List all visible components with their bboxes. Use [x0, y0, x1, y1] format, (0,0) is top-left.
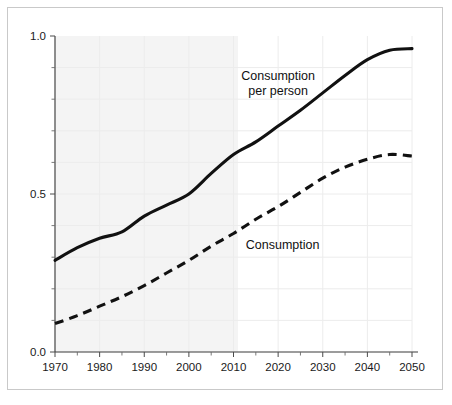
series-annotation-1: Consumption: [241, 69, 315, 83]
x-tick-label: 2000: [176, 361, 202, 373]
x-tick-label: 2030: [310, 361, 336, 373]
x-axis-tick-labels: 197019801990200020102020203020402050: [42, 361, 425, 373]
x-tick-label: 2010: [221, 361, 247, 373]
y-tick-label: 1.0: [30, 30, 46, 42]
series-annotation-2: Consumption: [246, 238, 320, 252]
series-annotations: Consumptionper personConsumption: [241, 69, 319, 252]
y-tick-label: 0.0: [30, 346, 46, 358]
x-tick-label: 1990: [131, 361, 157, 373]
x-tick-label: 1970: [42, 361, 68, 373]
line-chart-canvas: 197019801990200020102020203020402050 0.0…: [0, 0, 452, 405]
y-axis-tick-labels: 0.00.51.0: [30, 30, 46, 358]
x-tick-label: 2020: [265, 361, 291, 373]
series-annotation-1: per person: [248, 84, 308, 98]
x-tick-label: 2050: [399, 361, 425, 373]
x-tick-label: 1980: [87, 361, 113, 373]
chart-figure: 197019801990200020102020203020402050 0.0…: [0, 0, 452, 405]
y-tick-label: 0.5: [30, 188, 46, 200]
x-tick-label: 2040: [355, 361, 381, 373]
